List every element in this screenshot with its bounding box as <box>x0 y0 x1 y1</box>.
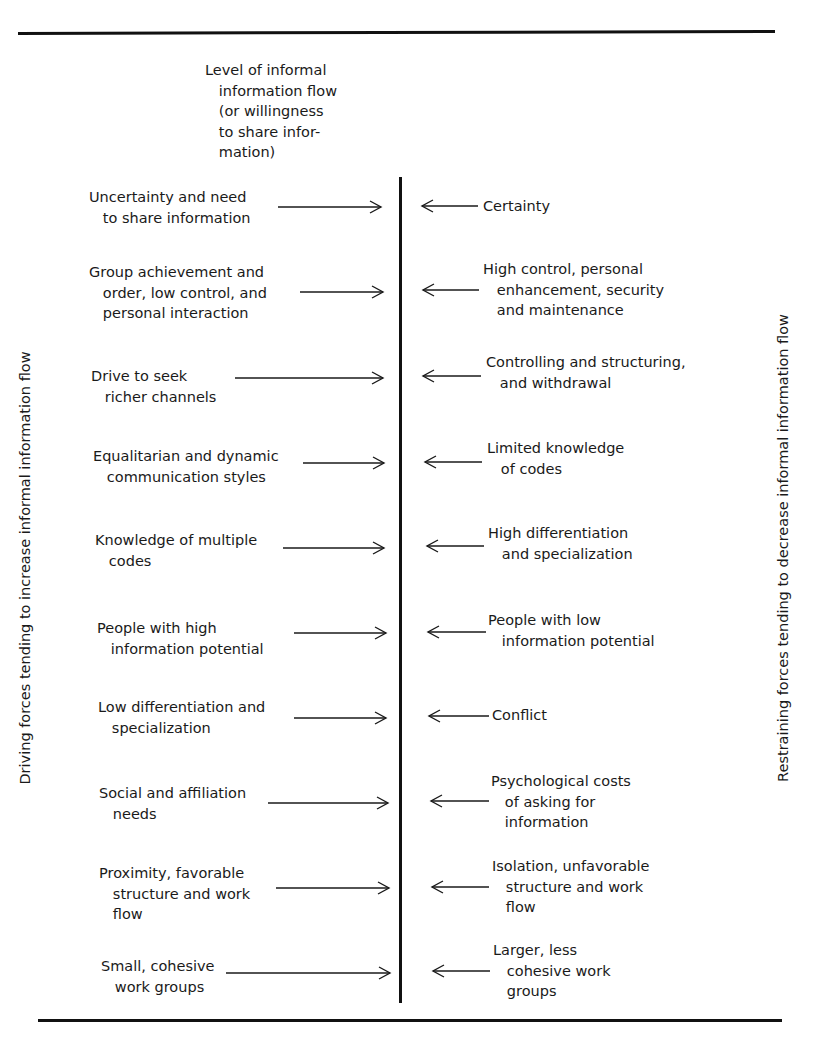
driving-force-group-achievement: Group achievement and order, low control… <box>89 262 267 324</box>
restraining-force-psychological-costs: Psychological costs of asking for inform… <box>491 771 631 833</box>
restraining-force-high-differentiation: High differentiation and specialization <box>488 523 633 564</box>
driving-forces-side-label: Driving forces tending to increase infor… <box>17 318 33 818</box>
restraining-force-certainty: Certainty <box>483 196 550 217</box>
restraining-forces-side-label: Restraining forces tending to decrease i… <box>775 298 791 798</box>
driving-force-proximity: Proximity, favorable structure and work … <box>99 863 250 925</box>
restraining-force-larger-groups: Larger, less cohesive work groups <box>493 940 611 1002</box>
center-axis-title: Level of informal information flow (or w… <box>205 60 337 163</box>
restraining-force-isolation: Isolation, unfavorable structure and wor… <box>492 856 649 918</box>
driving-force-small-groups: Small, cohesive work groups <box>101 956 215 997</box>
restraining-arrow-icons <box>422 200 490 977</box>
driving-force-multiple-codes: Knowledge of multiple codes <box>95 530 257 571</box>
driving-force-low-differentiation: Low differentiation and specialization <box>98 697 265 738</box>
driving-force-richer-channels: Drive to seek richer channels <box>91 366 216 407</box>
driving-force-social-affiliation: Social and affiliation needs <box>99 783 246 824</box>
driving-force-high-info-people: People with high information potential <box>97 618 264 659</box>
restraining-force-limited-codes: Limited knowledge of codes <box>487 438 624 479</box>
top-rule <box>18 30 775 35</box>
restraining-force-low-info-people: People with low information potential <box>488 610 655 651</box>
restraining-force-high-control: High control, personal enhancement, secu… <box>483 259 664 321</box>
bottom-rule <box>38 1019 782 1022</box>
equilibrium-axis-line <box>399 177 402 1003</box>
restraining-force-controlling: Controlling and structuring, and withdra… <box>486 352 686 393</box>
restraining-force-conflict: Conflict <box>492 705 547 726</box>
driving-force-equalitarian-styles: Equalitarian and dynamic communication s… <box>93 446 279 487</box>
driving-force-uncertainty: Uncertainty and need to share informatio… <box>89 187 250 228</box>
